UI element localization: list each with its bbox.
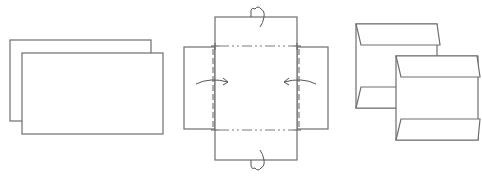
step-3-folded-pieces <box>356 24 480 140</box>
front-folded-piece <box>396 56 480 140</box>
center-panel <box>215 17 297 160</box>
left-flap <box>184 47 215 129</box>
diagram-stage <box>0 0 482 186</box>
front-sheet <box>22 53 163 134</box>
back-top-flap <box>356 24 440 45</box>
folding-diagram <box>0 0 482 186</box>
step-1-sheets <box>10 40 163 134</box>
right-flap <box>297 47 328 129</box>
step-2-unfolded-sheet <box>184 7 328 170</box>
front-bottom-flap <box>396 119 480 140</box>
front-top-flap <box>396 56 480 77</box>
